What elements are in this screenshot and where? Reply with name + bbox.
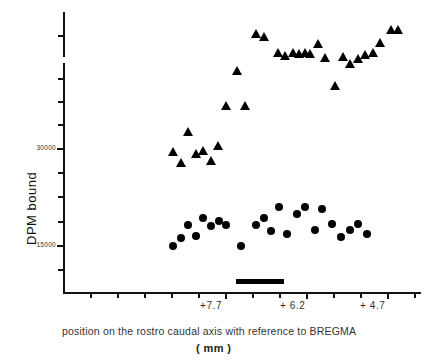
data-point-triangle (305, 49, 315, 58)
x-axis-tick (333, 293, 335, 298)
y-axis-tick (58, 221, 63, 223)
data-point-circle (177, 234, 185, 242)
data-point-circle (328, 220, 336, 228)
data-point-triangle (232, 66, 242, 75)
data-point-circle (363, 230, 371, 238)
y-axis-tick (58, 78, 63, 80)
data-point-circle (184, 221, 192, 229)
y-axis-tick-major (57, 245, 63, 247)
data-point-circle (337, 233, 345, 241)
data-point-circle (192, 232, 200, 240)
x-axis-tick (279, 293, 281, 298)
data-point-circle (199, 214, 207, 222)
data-point-triangle (183, 127, 193, 136)
data-point-circle (169, 242, 177, 250)
y-axis-tick (58, 101, 63, 103)
data-point-circle (207, 222, 215, 230)
y-axis-tick (58, 269, 63, 271)
chart-figure: 30000 15000 DPM bound +7.7 + 6.2 + 4.7 p… (0, 0, 436, 362)
data-point-triangle (393, 25, 403, 34)
data-point-triangle (330, 81, 340, 90)
data-point-triangle (176, 158, 186, 167)
data-point-circle (275, 203, 283, 211)
y-axis-upper-segment (63, 12, 65, 57)
data-point-circle (267, 227, 275, 235)
x-axis-tick (90, 293, 92, 298)
data-point-triangle (221, 101, 231, 110)
data-point-triangle (206, 156, 216, 165)
data-point-triangle (259, 32, 269, 41)
data-point-triangle (168, 147, 178, 156)
y-axis-lower-segment (63, 63, 65, 293)
data-point-circle (301, 203, 309, 211)
y-axis-title: DPM bound (24, 172, 39, 245)
data-point-circle (260, 214, 268, 222)
x-axis-tick (414, 293, 416, 298)
data-point-circle (222, 221, 230, 229)
x-axis-tick (171, 293, 173, 298)
y-axis-tick (58, 124, 63, 126)
x-axis-tick-label-6-2: + 6.2 (280, 300, 306, 311)
data-point-circle (318, 205, 326, 213)
region-marker-bar (236, 279, 284, 284)
x-axis-tick-major (306, 293, 308, 299)
data-point-circle (252, 221, 260, 229)
x-axis-tick (144, 293, 146, 298)
data-point-circle (293, 210, 301, 218)
data-point-triangle (240, 101, 250, 110)
x-axis-tick (117, 293, 119, 298)
data-point-circle (346, 226, 354, 234)
data-point-triangle (198, 146, 208, 155)
data-point-circle (354, 220, 362, 228)
data-point-triangle (375, 38, 385, 47)
y-axis-tick (58, 196, 63, 198)
data-point-triangle (213, 141, 223, 150)
x-axis-tick (252, 293, 254, 298)
x-axis-tick-label-7-7: +7.7 (200, 300, 222, 311)
data-point-circle (237, 242, 245, 250)
x-axis-caption-line1: position on the rostro caudal axis with … (62, 325, 356, 337)
x-axis-tick-label-4-7: + 4.7 (360, 300, 386, 311)
data-point-triangle (313, 39, 323, 48)
y-axis-tick-label-30000: 30000 (26, 144, 56, 151)
y-axis-tick-major (57, 148, 63, 150)
x-axis-tick (360, 293, 362, 298)
y-axis-tick (58, 172, 63, 174)
data-point-triangle (368, 48, 378, 57)
data-point-circle (283, 230, 291, 238)
data-point-triangle (320, 53, 330, 62)
x-axis-caption-line2: ( mm ) (196, 342, 231, 354)
x-axis-tick-major (387, 293, 389, 299)
x-axis-tick-major (225, 293, 227, 299)
x-axis-tick (198, 293, 200, 298)
y-axis-tick (58, 35, 63, 37)
data-point-circle (311, 226, 319, 234)
